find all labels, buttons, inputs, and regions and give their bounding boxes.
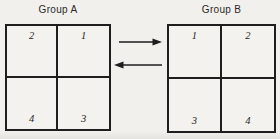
arrow-left-icon <box>114 62 162 69</box>
arrow-right-icon <box>119 39 162 46</box>
figure-canvas: Group A Group B 2 1 4 3 1 2 3 4 <box>0 0 280 139</box>
exchange-arrows <box>0 0 280 139</box>
